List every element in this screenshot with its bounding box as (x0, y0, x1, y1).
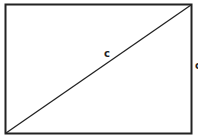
rectangle-diagram (0, 0, 198, 137)
diagonal-label: c (104, 49, 110, 59)
diagram-canvas: c c (0, 0, 198, 137)
diagonal-line (6, 5, 191, 133)
right-side-label: c (195, 61, 198, 71)
